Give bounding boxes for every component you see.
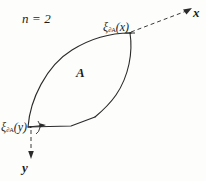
n-equals-label: n = 2 (22, 12, 51, 25)
xi-boundary-y-label: ξ∂A(y) (1, 121, 27, 133)
n-value: 2 (44, 11, 51, 26)
xi-boundary-x-label: ξ∂A(x) (103, 21, 129, 33)
figure-canvas: n = 2 ξ∂A(x) ξ∂A(y) A x y (0, 0, 206, 181)
y-axis-line (28, 130, 34, 159)
x-axis-arrowhead (183, 8, 192, 15)
xi-argument: (x) (116, 20, 129, 34)
angle-arc (36, 121, 40, 134)
x-axis-label: x (193, 6, 200, 19)
xi-argument: (y) (14, 120, 27, 134)
n-equals-sign: = (29, 11, 44, 26)
region-label: A (76, 66, 85, 79)
x-axis-line (131, 8, 192, 32)
n-variable: n (22, 11, 29, 26)
region-outline (28, 33, 131, 127)
y-axis-label: y (22, 161, 28, 174)
xi-subscript: ∂A (6, 126, 14, 133)
y-axis-arrowhead (28, 151, 34, 159)
xi-subscript: ∂A (108, 26, 116, 33)
